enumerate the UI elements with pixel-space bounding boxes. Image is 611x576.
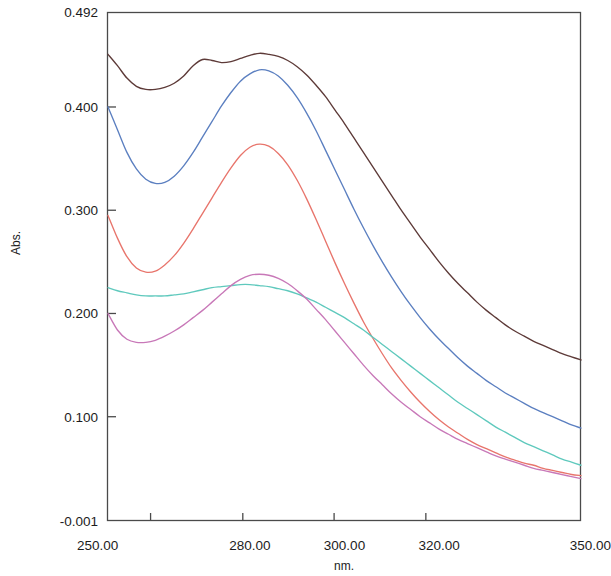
y-tick-label: 0.300 <box>64 203 98 218</box>
x-tick-label: 280.00 <box>229 538 270 553</box>
y-tick-label: -0.001 <box>60 514 98 529</box>
y-tick-label: 0.492 <box>64 5 98 20</box>
y-axis-title: Abs. <box>9 231 23 255</box>
plot-area: 0.4920.4000.3000.2000.100-0.001 250.0028… <box>0 0 611 576</box>
y-tick-label: 0.100 <box>64 410 98 425</box>
y-tick-label: 0.200 <box>64 306 98 321</box>
y-tick-label: 0.400 <box>64 100 98 115</box>
x-tick-label: 300.00 <box>324 538 365 553</box>
x-axis-title: nm. <box>334 559 354 573</box>
x-tick-label: 350.00 <box>570 538 611 553</box>
x-axis-tick-marks <box>151 513 426 521</box>
series-line-curve-1-dark-maroon <box>108 53 581 360</box>
y-axis-tick-labels: 0.4920.4000.3000.2000.100-0.001 <box>60 5 98 529</box>
data-series-group <box>108 53 581 478</box>
absorbance-spectrum-chart: 0.4920.4000.3000.2000.100-0.001 250.0028… <box>0 0 611 576</box>
x-tick-label: 320.00 <box>418 538 459 553</box>
series-line-curve-3-salmon-red <box>108 144 581 475</box>
x-tick-label: 250.00 <box>77 538 118 553</box>
series-line-curve-5-magenta-pink <box>108 274 581 478</box>
series-line-curve-4-cyan-teal <box>108 284 581 465</box>
plot-frame <box>108 13 581 521</box>
x-axis-tick-labels: 250.00280.00300.00320.00350.00 <box>77 538 611 553</box>
y-axis-tick-marks <box>108 107 116 417</box>
